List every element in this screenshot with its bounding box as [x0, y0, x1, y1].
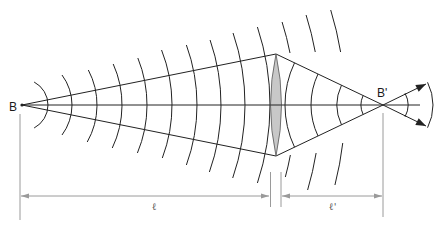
refracted-ray-top — [276, 54, 426, 126]
dimension-arrowhead-icon — [21, 193, 29, 198]
rays — [20, 54, 426, 156]
unrefracted-wavefront-arc — [308, 153, 316, 190]
unrefracted-wavefront-arc — [331, 10, 341, 52]
unrefracted-wavefront-arc — [335, 143, 343, 185]
refracted-ray-bottom — [276, 84, 426, 156]
ray-arrowhead-icon — [415, 118, 426, 126]
diverging-wavefront-arc — [112, 64, 122, 148]
incident-ray-top — [22, 54, 276, 105]
unrefracted-wavefront-arc — [282, 22, 290, 53]
lens-imaging-diagram: B B' ℓ ℓ' — [0, 0, 440, 228]
diverging-wavefront-arc — [162, 50, 172, 158]
dimension-arrowhead-icon — [282, 193, 290, 198]
object-distance-label: ℓ — [152, 201, 157, 212]
diverging-wavefront-arc — [87, 70, 97, 142]
unrefracted-wavefront-arc — [306, 15, 315, 52]
source-point-marker — [20, 103, 23, 106]
incident-ray-bottom — [22, 105, 276, 156]
ray-arrowhead-icon — [415, 84, 426, 92]
unrefracted-wavefront-arc — [285, 155, 290, 177]
image-point-label: B' — [377, 86, 387, 100]
image-distance-label: ℓ' — [329, 201, 337, 212]
diverging-wavefront-arc — [209, 40, 221, 172]
dimension-arrowhead-icon — [261, 193, 269, 198]
dimension-arrowhead-icon — [374, 193, 382, 198]
lens — [271, 54, 282, 156]
source-point-label: B — [9, 100, 17, 114]
post-focus-wavefront-arc — [428, 82, 433, 127]
